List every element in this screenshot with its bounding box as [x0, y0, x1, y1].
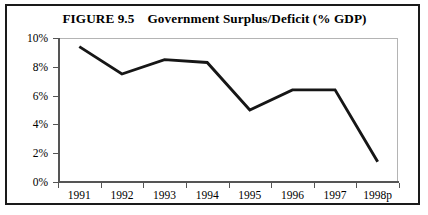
surplus-deficit-line: [79, 47, 377, 162]
y-axis-tick: [53, 182, 58, 183]
y-axis-tick: [53, 124, 58, 125]
data-series-chart: [7, 6, 422, 207]
y-axis-tick: [53, 153, 58, 154]
figure-root: FIGURE 9.5Government Surplus/Deficit (% …: [0, 0, 428, 215]
y-axis-tick: [53, 38, 58, 39]
chart-plot-area: 0%2%4%6%8%10% 19911992199319941995199619…: [7, 6, 422, 207]
figure-border: FIGURE 9.5Government Surplus/Deficit (% …: [5, 4, 420, 205]
y-axis-tick: [53, 67, 58, 68]
y-axis-tick: [53, 96, 58, 97]
